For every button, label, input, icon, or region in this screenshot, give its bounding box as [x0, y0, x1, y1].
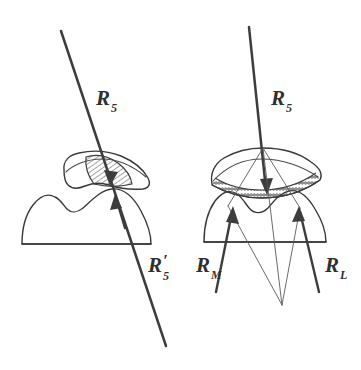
component-rm-label: R M [195, 253, 222, 282]
resultant-r5-prime-label-left: R ′ 5 [147, 251, 169, 283]
arrow-up-head-left [110, 194, 122, 210]
resultant-r5-base-right: R [270, 86, 285, 110]
component-rl-subscript: L [339, 268, 347, 282]
component-rl-label: R L [324, 253, 347, 282]
arrow-head-rm [226, 206, 239, 224]
ray-apex-to-lateral [263, 148, 300, 208]
resultant-r5-prime-subscript: 5 [163, 269, 169, 283]
resultant-r5-base: R [95, 86, 110, 110]
ray-lateral-to-convergence [282, 208, 300, 305]
component-rm-subscript: M [210, 268, 222, 282]
lower-molar-outline-left [22, 189, 151, 244]
component-vector-rl [300, 212, 319, 292]
left-panel-group: R 5 R ′ 5 [22, 31, 169, 346]
resultant-r5-subscript-right: 5 [286, 101, 292, 115]
resultant-r5-subscript: 5 [111, 101, 117, 115]
component-rm-base: R [195, 253, 210, 277]
resultant-r5-label-right: R 5 [270, 86, 292, 115]
resultant-r5-prime-base: R [147, 253, 162, 277]
resultant-r5-label-left: R 5 [95, 86, 117, 115]
resultant-r5-prime-mark: ′ [163, 251, 168, 270]
right-panel-group: R 5 R M R L [195, 27, 347, 305]
figure-canvas: R 5 R ′ 5 [0, 0, 361, 370]
arrow-head-rl [292, 206, 305, 222]
ray-apex-to-mesial [263, 148, 282, 305]
component-rl-base: R [324, 253, 339, 277]
figure-root: R 5 R ′ 5 [0, 0, 361, 370]
resultant-vector-r5-right [249, 27, 266, 190]
